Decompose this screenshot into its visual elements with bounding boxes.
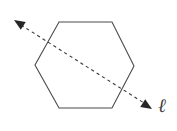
arrowhead-down-right-icon [140,99,152,109]
arrowhead-up-left-icon [14,20,26,30]
hexagon-shape [35,22,134,108]
dashed-symmetry-line [21,25,144,103]
figure-canvas [0,0,177,131]
geometry-figure: ℓ [0,0,177,131]
line-label-ell: ℓ [158,96,166,115]
